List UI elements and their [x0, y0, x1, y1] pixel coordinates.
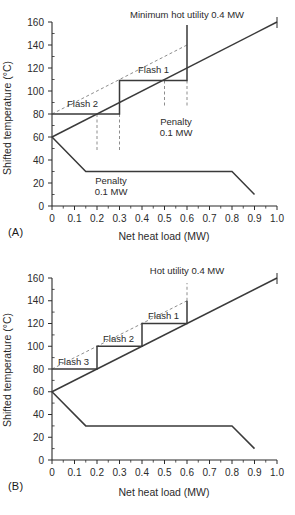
y-tick-label: 20 [33, 432, 45, 443]
x-tick-label: 0.5 [158, 467, 172, 478]
min-hot-utility-label: Minimum hot utility 0.4 MW [130, 9, 244, 20]
flash-1-label: Flash 1 [138, 64, 169, 75]
y-tick-label: 80 [33, 364, 45, 375]
x-tick-label: 0.2 [90, 213, 104, 224]
x-tick-label: 0.4 [135, 467, 149, 478]
hot-composite-curve [52, 278, 277, 392]
x-tick-label: 1.0 [270, 467, 284, 478]
y-tick-label: 40 [33, 409, 45, 420]
y-tick-label: 20 [33, 178, 45, 189]
x-tick-label: 0.6 [180, 467, 194, 478]
x-tick-label: 0.3 [113, 213, 127, 224]
hot-utility-label: Hot utility 0.4 MW [150, 265, 224, 276]
y-tick-label: 100 [27, 341, 44, 352]
chart-panel-b: Shifted temperature (°C) 0 20 40 60 80 1… [0, 250, 295, 515]
y-tick-label: 120 [27, 63, 44, 74]
x-axis-label: Net heat load (MW) [118, 486, 209, 498]
y-tick-label: 80 [33, 109, 45, 120]
chart-b-svg: Shifted temperature (°C) 0 20 40 60 80 1… [0, 250, 295, 515]
flash-1-label: Flash 1 [148, 310, 179, 321]
x-tick-label: 1.0 [270, 213, 284, 224]
y-tick-labels: 0 20 40 60 80 100 120 140 160 [27, 17, 44, 212]
y-tick-label: 140 [27, 40, 44, 51]
y-tick-label: 100 [27, 86, 44, 97]
y-tick-label: 120 [27, 318, 44, 329]
x-tick-label: 0.9 [248, 467, 262, 478]
x-tick-label: 0.1 [68, 467, 82, 478]
y-axis-label: Shifted temperature (°C) [1, 313, 13, 427]
chart-panel-a: Shifted temperature (°C) 0 20 40 60 80 1… [0, 0, 295, 250]
x-tick-label: 0.9 [248, 213, 262, 224]
penalty-lower-label-line1: Penalty [95, 175, 127, 186]
cold-composite-curve [52, 137, 255, 195]
x-tick-label: 0.5 [158, 213, 172, 224]
flash-2-label: Flash 2 [103, 333, 134, 344]
x-tick-label: 0.1 [68, 213, 82, 224]
x-tick-label: 0 [49, 467, 55, 478]
x-axis-label: Net heat load (MW) [118, 230, 209, 242]
x-tick-label: 0.2 [90, 467, 104, 478]
y-tick-label: 60 [33, 132, 45, 143]
flash-2-label: Flash 2 [67, 98, 98, 109]
x-tick-labels: 0 0.1 0.2 0.3 0.4 0.5 0.6 0.7 0.8 0.9 1.… [49, 213, 284, 224]
x-tick-labels: 0 0.1 0.2 0.3 0.4 0.5 0.6 0.7 0.8 0.9 1.… [49, 467, 284, 478]
x-tick-label: 0.7 [203, 213, 217, 224]
y-tick-label: 0 [38, 455, 44, 466]
x-tick-label: 0.3 [113, 467, 127, 478]
y-tick-label: 40 [33, 155, 45, 166]
chart-a-svg: Shifted temperature (°C) 0 20 40 60 80 1… [0, 0, 295, 250]
y-tick-label: 160 [27, 273, 44, 284]
y-major-ticks [48, 22, 52, 206]
y-tick-labels: 0 20 40 60 80 100 120 140 160 [27, 273, 44, 466]
x-tick-label: 0.6 [180, 213, 194, 224]
penalty-upper-label-line2: 0.1 MW [160, 127, 193, 138]
flash-3-label: Flash 3 [58, 356, 89, 367]
x-tick-label: 0.8 [225, 467, 239, 478]
penalty-upper-label-line1: Penalty [160, 116, 192, 127]
x-tick-label: 0 [49, 213, 55, 224]
x-tick-label: 0.7 [203, 467, 217, 478]
cold-composite-curve [52, 392, 255, 449]
y-tick-label: 60 [33, 386, 45, 397]
penalty-lower-label-line2: 0.1 MW [95, 186, 128, 197]
y-tick-label: 0 [38, 201, 44, 212]
y-tick-label: 160 [27, 17, 44, 28]
x-tick-label: 0.8 [225, 213, 239, 224]
y-tick-label: 140 [27, 295, 44, 306]
y-major-ticks [48, 278, 52, 460]
y-axis-label: Shifted temperature (°C) [1, 61, 13, 175]
panel-tag-a: (A) [8, 226, 23, 238]
x-tick-label: 0.4 [135, 213, 149, 224]
panel-tag-b: (B) [8, 480, 23, 492]
